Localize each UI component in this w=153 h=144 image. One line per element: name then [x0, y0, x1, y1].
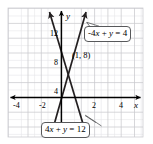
x-axis-label: x: [134, 100, 138, 110]
x-tick-label-minus4: -4: [13, 101, 20, 110]
callout-top-rhs: 4: [123, 28, 128, 38]
callout-bottom-var1: x: [50, 124, 54, 134]
callout-bottom-var2: y: [63, 124, 67, 134]
intersection-point-label: (1, 8): [72, 50, 90, 60]
y-tick-label-12: 12: [50, 29, 58, 38]
callout-equation-bottom: 4x + y = 12 4x + y = 12: [41, 122, 90, 138]
x-tick-label-2: 2: [92, 101, 96, 110]
x-tick-label-minus2: -2: [39, 101, 46, 110]
y-tick-label-8: 8: [54, 58, 58, 67]
y-tick-label-4: 4: [54, 87, 58, 96]
callout-equation-top: -4x + y = 4 -4x + y = 4: [84, 26, 131, 42]
callout-top-plus: +: [102, 28, 107, 38]
callout-top-var1: x: [96, 28, 100, 38]
x-tick-label-4: 4: [119, 101, 123, 110]
callout-bottom-rhs: 12: [77, 124, 86, 134]
callout-bottom-plus: +: [56, 124, 61, 134]
y-axis-label: y: [66, 11, 70, 21]
callout-top-eq: =: [115, 28, 120, 38]
coordinate-graph-figure: y x -4 -2 2 4 12 8 4 (1, 8) -4x + y = 4 …: [0, 0, 153, 144]
callout-top-var2: y: [109, 28, 113, 38]
callout-top-coef: -4: [88, 28, 96, 38]
callout-bottom-eq: =: [69, 124, 74, 134]
